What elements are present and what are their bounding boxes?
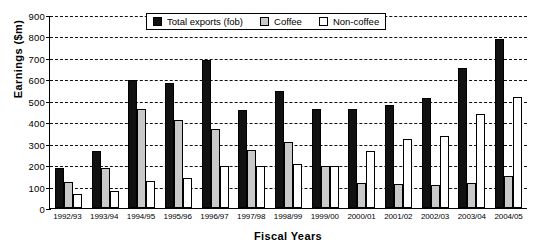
x-axis-title: Fiscal Years xyxy=(49,230,527,242)
bar-coffee xyxy=(211,129,220,208)
bar-group xyxy=(490,16,527,208)
bar-coffee xyxy=(174,120,183,208)
y-axis-tick-label: 0 xyxy=(40,204,45,215)
bar-chart: Earnings ($m) Total exports (fob) Coffee… xyxy=(0,0,541,251)
bar-noncoffee xyxy=(440,136,449,208)
bar-group xyxy=(50,16,87,208)
plot-area: 0100200300400500600700800900 xyxy=(49,16,527,209)
bar-noncoffee xyxy=(220,166,229,208)
bar-total xyxy=(202,60,211,208)
bar-noncoffee xyxy=(366,151,375,208)
bar-total xyxy=(348,109,357,208)
x-axis-tick-label: 2002/03 xyxy=(417,212,454,221)
y-axis-tick-label: 300 xyxy=(29,139,45,150)
y-axis-tick-label: 500 xyxy=(29,96,45,107)
legend-item-coffee: Coffee xyxy=(260,16,302,27)
legend-label-coffee: Coffee xyxy=(274,16,302,27)
bar-total xyxy=(422,98,431,208)
bar-noncoffee xyxy=(146,181,155,208)
bar-coffee xyxy=(64,182,73,208)
bar-total xyxy=(55,168,64,208)
legend-swatch-total-exports xyxy=(153,17,162,26)
bar-group xyxy=(233,16,270,208)
bar-group xyxy=(307,16,344,208)
bar-group xyxy=(123,16,160,208)
bar-coffee xyxy=(357,183,366,208)
y-axis-tick-label: 100 xyxy=(29,182,45,193)
y-axis-tick-label: 900 xyxy=(29,11,45,22)
bar-total xyxy=(312,109,321,208)
x-axis-tick-label: 1999/00 xyxy=(306,212,343,221)
y-axis-tick-label: 700 xyxy=(29,53,45,64)
bar-noncoffee xyxy=(513,97,522,209)
bar-total xyxy=(275,91,284,209)
bar-group xyxy=(380,16,417,208)
y-axis-title: Earnings ($m) xyxy=(12,0,24,124)
legend-swatch-coffee xyxy=(260,17,269,26)
bar-total xyxy=(458,68,467,208)
y-axis-tick-label: 600 xyxy=(29,75,45,86)
bar-coffee xyxy=(284,142,293,208)
bar-coffee xyxy=(321,166,330,208)
y-axis-tick-label: 400 xyxy=(29,118,45,129)
bar-group xyxy=(454,16,491,208)
bar-total xyxy=(128,80,137,208)
bar-noncoffee xyxy=(110,191,119,208)
y-axis-tick-mark xyxy=(46,209,51,210)
bar-coffee xyxy=(137,109,146,208)
bar-coffee xyxy=(467,183,476,208)
x-axis-tick-label: 1994/95 xyxy=(123,212,160,221)
bar-groups xyxy=(50,16,527,208)
legend-item-total-exports: Total exports (fob) xyxy=(153,16,243,27)
bar-coffee xyxy=(247,150,256,208)
bar-noncoffee xyxy=(330,166,339,208)
bar-group xyxy=(197,16,234,208)
x-axis-tick-label: 1998/99 xyxy=(270,212,307,221)
x-axis-tick-label: 1992/93 xyxy=(49,212,86,221)
chart-legend: Total exports (fob) Coffee Non-coffee xyxy=(146,13,386,30)
x-axis-tick-label: 2000/01 xyxy=(343,212,380,221)
bar-noncoffee xyxy=(183,178,192,208)
bar-noncoffee xyxy=(73,194,82,208)
bar-coffee xyxy=(504,176,513,208)
bar-noncoffee xyxy=(403,139,412,208)
bar-group xyxy=(87,16,124,208)
bar-coffee xyxy=(431,185,440,208)
x-axis-tick-label: 1996/97 xyxy=(196,212,233,221)
bar-group xyxy=(344,16,381,208)
x-axis-tick-labels: 1992/931993/941994/951995/961996/971997/… xyxy=(49,212,527,221)
x-axis-tick-label: 2003/04 xyxy=(453,212,490,221)
bar-group xyxy=(160,16,197,208)
bar-noncoffee xyxy=(476,114,485,208)
bar-total xyxy=(385,105,394,208)
bar-coffee xyxy=(101,168,110,208)
x-axis-tick-label: 1993/94 xyxy=(86,212,123,221)
y-axis-tick-label: 800 xyxy=(29,32,45,43)
bar-total xyxy=(165,83,174,208)
bar-coffee xyxy=(394,184,403,208)
bar-group xyxy=(270,16,307,208)
bar-noncoffee xyxy=(293,164,302,208)
legend-item-non-coffee: Non-coffee xyxy=(319,16,379,27)
legend-label-total-exports: Total exports (fob) xyxy=(167,16,243,27)
legend-label-non-coffee: Non-coffee xyxy=(333,16,379,27)
bar-total xyxy=(495,39,504,208)
x-axis-tick-label: 1997/98 xyxy=(233,212,270,221)
y-axis-tick-label: 200 xyxy=(29,161,45,172)
legend-swatch-non-coffee xyxy=(319,17,328,26)
bar-total xyxy=(238,110,247,208)
x-axis-tick-label: 2004/05 xyxy=(490,212,527,221)
bar-group xyxy=(417,16,454,208)
x-axis-tick-label: 2001/02 xyxy=(380,212,417,221)
bar-total xyxy=(92,151,101,208)
x-axis-tick-label: 1995/96 xyxy=(159,212,196,221)
bar-noncoffee xyxy=(256,166,265,208)
